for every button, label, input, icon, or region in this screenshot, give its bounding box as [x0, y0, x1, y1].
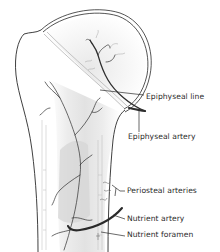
- label-epiphyseal-artery: Epiphyseal artery: [128, 133, 196, 141]
- leader-nutrient-artery: [113, 215, 125, 219]
- label-periosteal-arteries: Periosteal arteries: [127, 187, 197, 195]
- bone-diagram: [0, 0, 220, 252]
- label-nutrient-artery: Nutrient artery: [127, 215, 184, 223]
- label-epiphyseal-line: Epiphyseal line: [146, 93, 204, 101]
- medullary-cavity: [50, 80, 120, 252]
- leader-periosteal-arteries: [112, 185, 125, 196]
- label-nutrient-foramen: Nutrient foramen: [127, 231, 193, 239]
